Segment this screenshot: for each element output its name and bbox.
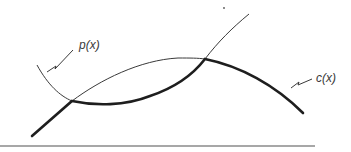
- leader-c-squiggle: [291, 79, 312, 88]
- diagram-canvas: p(x) c(x): [0, 0, 351, 152]
- leader-p-squiggle: [47, 50, 73, 72]
- label-c: c(x): [316, 71, 336, 85]
- curve-p: [37, 14, 249, 101]
- dot-marker: [223, 7, 225, 9]
- curve-c: [32, 59, 303, 136]
- label-p: p(x): [78, 38, 100, 52]
